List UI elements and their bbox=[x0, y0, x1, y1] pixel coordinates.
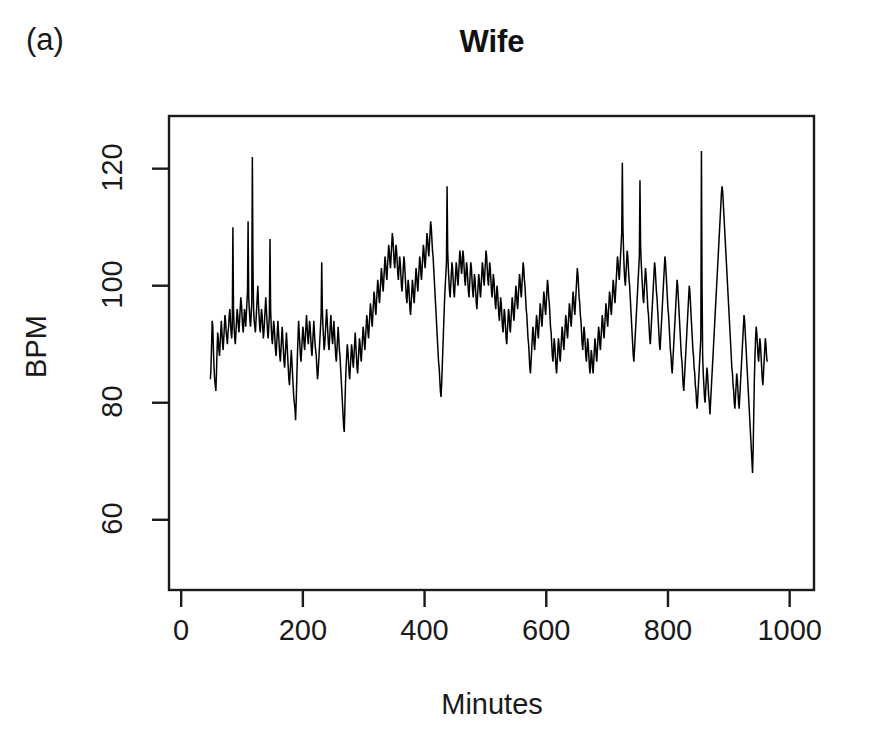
plot-frame bbox=[169, 116, 814, 590]
y-tick-label: 80 bbox=[96, 371, 129, 431]
y-axis-ticks bbox=[152, 169, 169, 520]
x-tick-label: 600 bbox=[522, 614, 570, 647]
y-tick-label: 60 bbox=[96, 488, 129, 548]
y-tick-label: 120 bbox=[96, 137, 129, 197]
series-line-wife bbox=[210, 151, 767, 473]
x-axis-label: Minutes bbox=[169, 688, 815, 721]
x-tick-label: 800 bbox=[644, 614, 692, 647]
figure-panel: (a) Wife 02004006008001000 6080100120 Mi… bbox=[0, 0, 875, 752]
x-tick-label: 1000 bbox=[757, 614, 822, 647]
x-tick-label: 0 bbox=[173, 614, 189, 647]
x-tick-label: 200 bbox=[279, 614, 327, 647]
y-tick-label: 100 bbox=[96, 254, 129, 314]
x-axis-ticks bbox=[181, 590, 789, 607]
x-tick-label: 400 bbox=[400, 614, 448, 647]
y-axis-label: BPM bbox=[20, 277, 53, 417]
